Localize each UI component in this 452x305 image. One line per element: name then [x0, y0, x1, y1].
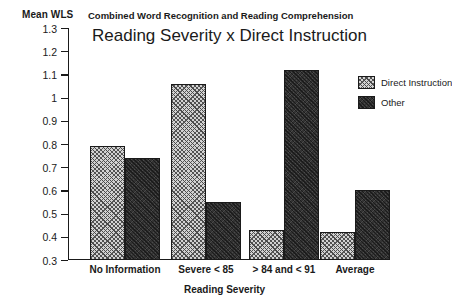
y-axis-tick: 0.5: [61, 214, 68, 215]
y-axis-tick: 0.9: [61, 121, 68, 122]
legend-item-label: Other: [381, 97, 405, 108]
y-axis-tick: 0.4: [61, 237, 68, 238]
y-axis-tick-label: 0.4: [42, 231, 57, 243]
y-axis-tick-label: 1: [51, 92, 57, 104]
bar[interactable]: [125, 158, 160, 260]
y-axis-tick: 1.3: [61, 28, 68, 29]
y-axis-tick: 1.2: [61, 51, 68, 52]
y-axis-tick: 0.8: [61, 144, 68, 145]
bar[interactable]: [355, 190, 390, 260]
legend-item[interactable]: Direct Instruction: [358, 76, 452, 89]
y-axis-tick-label: 0.9: [42, 115, 57, 127]
y-axis-title: Mean WLS: [22, 9, 73, 20]
legend-swatch: [358, 76, 375, 89]
bar[interactable]: [90, 146, 125, 260]
x-axis-category-label: Average: [335, 264, 374, 275]
bar[interactable]: [320, 232, 355, 260]
bar[interactable]: [171, 84, 206, 260]
bar-group: [249, 28, 319, 260]
y-axis-tick: 0.6: [61, 190, 68, 191]
bar-group: [320, 28, 390, 260]
y-axis-tick-label: 1.2: [42, 46, 57, 58]
bar[interactable]: [206, 202, 241, 260]
legend-swatch: [358, 96, 375, 109]
bars-layer: [68, 28, 390, 260]
x-axis-category-label: > 84 and < 91: [253, 264, 316, 275]
y-axis-tick: 0.3: [61, 260, 68, 261]
y-axis-tick: 1: [61, 98, 68, 99]
bar[interactable]: [249, 230, 284, 260]
plot-area: 1.31.21.110.90.80.70.60.50.40.3: [68, 28, 390, 260]
y-axis-tick-label: 0.3: [42, 255, 57, 267]
y-axis-tick-label: 0.6: [42, 185, 57, 197]
y-axis-tick-label: 1.3: [42, 23, 57, 35]
y-axis-tick-label: 0.5: [42, 208, 57, 220]
bar-group: [171, 28, 241, 260]
x-axis-category-label: No Information: [89, 264, 160, 275]
y-axis-tick-label: 0.7: [42, 162, 57, 174]
legend-item[interactable]: Other: [358, 96, 452, 109]
legend: Direct InstructionOther: [358, 76, 452, 116]
y-axis-tick: 0.7: [61, 167, 68, 168]
chart-subtitle: Combined Word Recognition and Reading Co…: [88, 10, 353, 21]
y-axis-tick-label: 1.1: [42, 69, 57, 81]
y-axis-tick-label: 0.8: [42, 139, 57, 151]
bar[interactable]: [284, 70, 319, 260]
x-axis-category-label: Severe < 85: [178, 264, 233, 275]
bar-group: [90, 28, 160, 260]
legend-item-label: Direct Instruction: [381, 77, 452, 88]
y-axis-tick: 1.1: [61, 74, 68, 75]
x-axis-title: Reading Severity: [0, 284, 449, 295]
